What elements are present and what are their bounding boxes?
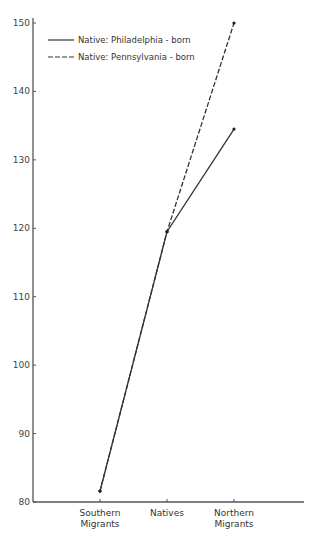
series-lines [98, 21, 235, 492]
y-tick-label: 140 [13, 86, 30, 96]
data-point [232, 21, 235, 24]
data-point [165, 230, 168, 233]
y-tick-label: 150 [13, 18, 30, 28]
x-category-label: Migrants [214, 519, 253, 529]
x-category-label: Northern [214, 508, 254, 518]
line-chart: 8090100110120130140150SouthernMigrantsNa… [0, 0, 319, 537]
x-category-label: Southern [80, 508, 121, 518]
series-line-dashed [100, 23, 234, 491]
legend-label-philadelphia: Native: Philadelphia - born [78, 35, 191, 45]
y-tick-label: 110 [13, 292, 30, 302]
axes: 8090100110120130140150SouthernMigrantsNa… [13, 18, 304, 529]
data-point [232, 127, 235, 130]
legend: Native: Philadelphia - born Native: Penn… [48, 35, 195, 62]
legend-label-pennsylvania: Native: Pennsylvania - born [78, 52, 195, 62]
y-tick-label: 100 [13, 360, 30, 370]
data-point [98, 489, 101, 492]
y-tick-label: 120 [13, 223, 30, 233]
y-tick-label: 80 [19, 497, 31, 507]
y-tick-label: 130 [13, 155, 30, 165]
x-category-label: Migrants [80, 519, 119, 529]
y-tick-label: 90 [19, 429, 31, 439]
series-line-solid [100, 129, 234, 491]
x-category-label: Natives [150, 508, 184, 518]
